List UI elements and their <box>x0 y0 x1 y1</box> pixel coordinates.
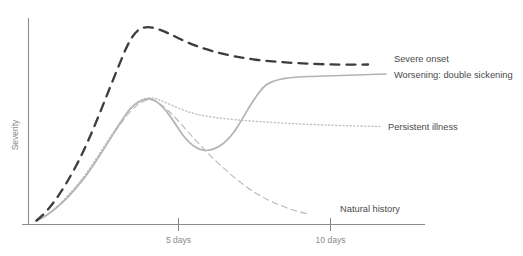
curve-natural-history <box>36 100 310 221</box>
x-tick-label-10-days: 10 days <box>316 235 346 245</box>
curve-severe-onset <box>37 27 369 220</box>
severity-time-chart: 5 days 10 days Severity Severe onset Wor… <box>0 0 523 256</box>
curve-worsening-double-sickening <box>36 74 386 221</box>
chart-svg: 5 days 10 days Severity Severe onset Wor… <box>0 0 523 256</box>
series-label-natural-history: Natural history <box>340 204 400 214</box>
curve-persistent-illness <box>36 98 380 221</box>
y-axis-title: Severity <box>10 119 20 150</box>
x-tick-label-5-days: 5 days <box>166 235 191 245</box>
series-label-persistent-illness: Persistent illness <box>388 122 458 132</box>
series-label-severe-onset: Severe onset <box>394 54 449 64</box>
series-label-worsening: Worsening: double sickening <box>394 70 513 80</box>
